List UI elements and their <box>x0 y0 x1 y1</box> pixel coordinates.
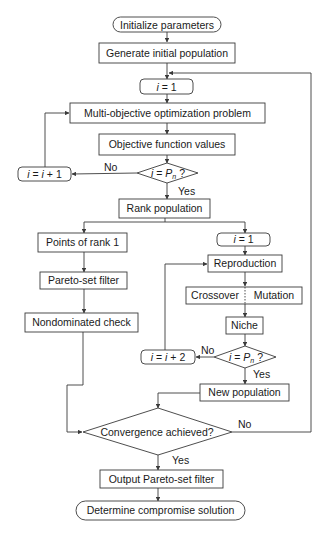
label: Output Pareto-set filter <box>109 473 215 485</box>
edge-inc1-to-moo <box>45 113 69 167</box>
label: i = 1 <box>156 81 176 93</box>
edge-label-yes-convergence: Yes <box>172 454 189 466</box>
node-multi-objective-problem: Multi-objective optimization problem <box>70 103 265 123</box>
label: New population <box>208 386 281 398</box>
label: i = i + 1 <box>27 168 62 180</box>
edge-label-no-2: No <box>201 344 215 356</box>
node-output-pareto-set-filter: Output Pareto-set filter <box>100 470 223 488</box>
label: Generate initial population <box>106 47 228 59</box>
node-generate-initial-population: Generate initial population <box>99 43 235 63</box>
node-convergence-achieved: Convergence achieved? <box>83 408 232 455</box>
label: Multi-objective optimization problem <box>84 107 251 119</box>
node-pareto-set-filter: Pareto-set filter <box>40 272 127 289</box>
label: i = 1 <box>233 233 253 245</box>
node-new-population: New population <box>200 384 289 401</box>
label: Determine compromise solution <box>87 504 235 516</box>
label: Reproduction <box>214 257 277 269</box>
node-objective-function-values: Objective function values <box>99 134 235 155</box>
crossover-label: Crossover <box>191 289 239 301</box>
edge-newpop-to-convergence <box>158 393 200 408</box>
label: Pareto-set filter <box>48 274 120 286</box>
label: Rank population <box>127 202 203 214</box>
edge-label-yes-2: Yes <box>253 368 270 380</box>
node-niche: Niche <box>226 317 263 334</box>
label: i = Pn ? <box>229 351 263 364</box>
edge-nondominated-to-convergence <box>67 332 83 432</box>
node-points-of-rank-1: Points of rank 1 <box>38 233 127 252</box>
edge-convergence-no-loop <box>169 73 311 432</box>
label: Convergence achieved? <box>100 426 213 438</box>
node-i-equals-1-top: i = 1 <box>140 79 193 94</box>
label: Objective function values <box>109 138 226 150</box>
node-initialize-parameters: Initialize parameters <box>113 17 221 32</box>
mutation-label: Mutation <box>254 289 294 301</box>
edge-inc2-to-reproduction <box>165 264 207 350</box>
node-rank-population: Rank population <box>119 199 210 218</box>
label: Niche <box>231 319 258 331</box>
node-reproduction: Reproduction <box>208 255 282 272</box>
flowchart: Initialize parameters Generate initial p… <box>0 0 325 536</box>
edge-decision1-no <box>72 173 137 174</box>
edge-label-no-1: No <box>104 161 118 173</box>
edge-label-yes-1: Yes <box>178 185 195 197</box>
node-decision-i-equals-pn-2: i = Pn ? <box>214 346 276 368</box>
label: Initialize parameters <box>120 19 214 31</box>
node-i-increment-2: i = i + 2 <box>141 350 195 364</box>
edge-label-no-convergence: No <box>238 418 252 430</box>
label: i = i + 2 <box>151 351 186 363</box>
label: Nondominated check <box>32 316 131 328</box>
node-decision-i-equals-pn-1: i = Pn ? <box>137 163 198 183</box>
node-i-equals-1-right: i = 1 <box>217 233 270 246</box>
node-i-increment-1: i = i + 1 <box>18 167 71 181</box>
label: Points of rank 1 <box>46 236 119 248</box>
node-determine-compromise-solution: Determine compromise solution <box>76 501 245 520</box>
label: i = Pn ? <box>151 167 185 180</box>
node-crossover-mutation: Crossover Mutation <box>186 287 302 304</box>
node-nondominated-check: Nondominated check <box>25 313 138 332</box>
